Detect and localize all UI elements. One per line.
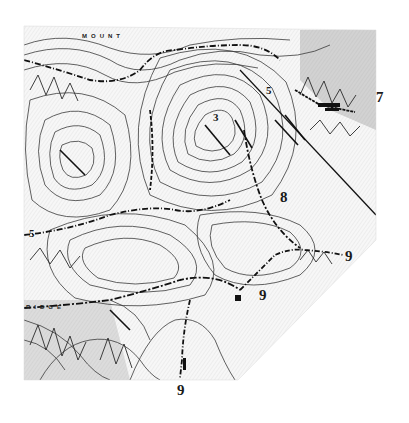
marker-5-north: 5 xyxy=(266,85,272,96)
marker-9-east: 9 xyxy=(345,249,353,264)
marker-8: 8 xyxy=(280,190,288,205)
place-label-mountain: MOUNT xyxy=(82,33,124,39)
place-label-ridge: RIDGE xyxy=(26,304,65,310)
marker-3: 3 xyxy=(213,112,219,123)
marker-7: 7 xyxy=(376,90,384,105)
topographic-map: MOUNT RIDGE 7 8 9 9 9 5 3 5 xyxy=(0,0,409,423)
marker-5-west: 5 xyxy=(29,228,35,239)
marker-9-south: 9 xyxy=(177,383,185,398)
marker-9-middle: 9 xyxy=(259,288,267,303)
contour-map-graphic xyxy=(0,0,409,423)
